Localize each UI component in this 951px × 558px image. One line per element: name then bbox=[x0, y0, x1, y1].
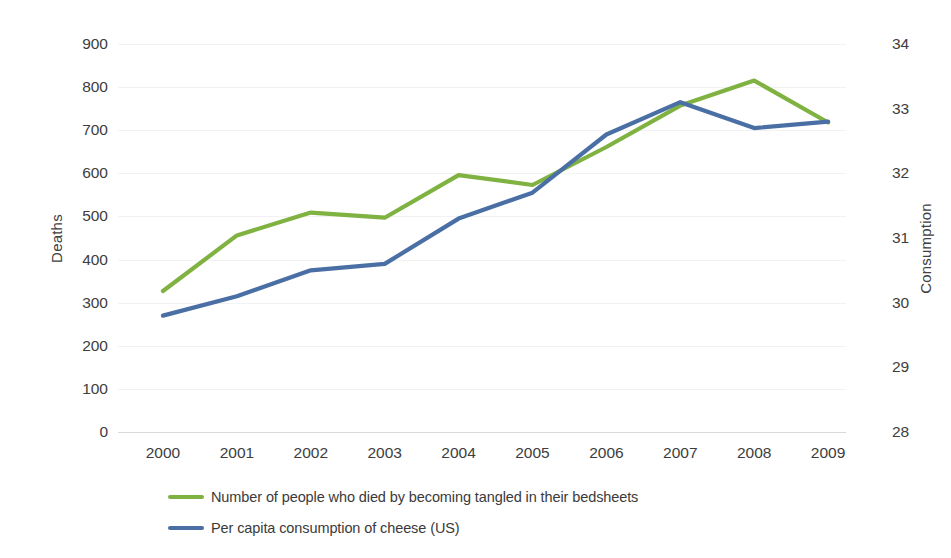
legend-item[interactable]: Per capita consumption of cheese (US) bbox=[168, 518, 868, 538]
legend-label: Per capita consumption of cheese (US) bbox=[211, 520, 460, 536]
legend-line-swatch-icon bbox=[168, 526, 204, 530]
plot-area bbox=[0, 0, 951, 558]
legend-line-swatch-icon bbox=[168, 495, 204, 499]
legend-label: Number of people who died by becoming ta… bbox=[211, 489, 638, 505]
legend-item[interactable]: Number of people who died by becoming ta… bbox=[168, 487, 868, 507]
series-line-2 bbox=[163, 102, 828, 315]
series-line-1 bbox=[163, 81, 828, 291]
chart-legend: Number of people who died by becoming ta… bbox=[168, 487, 868, 549]
chart-container: 9008007006005004003002001000 34333231302… bbox=[0, 0, 951, 558]
